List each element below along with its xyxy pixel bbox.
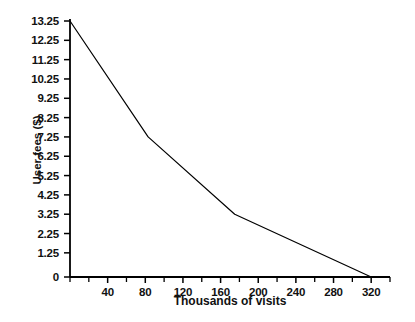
x-tick-label: 80 — [139, 286, 151, 298]
y-tick-label: 4.25 — [0, 189, 59, 201]
x-tick-label: 320 — [362, 286, 381, 298]
x-axis-title: Thousands of visits — [174, 294, 287, 308]
y-tick-label: 3.25 — [0, 208, 59, 220]
y-tick-label: 13.25 — [0, 15, 59, 27]
y-tick-label: 7.25 — [0, 131, 59, 143]
y-tick-label: 5.25 — [0, 170, 59, 182]
y-tick-label: 12.25 — [0, 34, 59, 46]
data-series-group — [70, 21, 371, 277]
y-axis-title: User fees ($) — [31, 115, 43, 184]
chart-container: 01.252.253.254.255.256.257.258.259.2510.… — [0, 0, 415, 322]
series-line-0 — [70, 21, 371, 277]
x-tick-label: 280 — [324, 286, 343, 298]
y-tick-label: 0 — [0, 271, 59, 283]
y-tick-label: 6.25 — [0, 150, 59, 162]
y-tick-label: 10.25 — [0, 73, 59, 85]
x-tick-label: 40 — [101, 286, 113, 298]
y-tick-label: 11.25 — [0, 54, 59, 66]
y-tick-label: 2.25 — [0, 228, 59, 240]
x-tick-label: 240 — [287, 286, 306, 298]
y-tick-label: 8.25 — [0, 112, 59, 124]
axis-lines — [70, 19, 390, 277]
line-chart-plot — [0, 0, 415, 322]
y-tick-label: 9.25 — [0, 92, 59, 104]
y-tick-label: 1.25 — [0, 247, 59, 259]
